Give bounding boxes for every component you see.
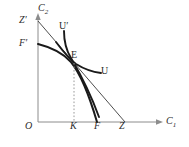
label-Z: Z (119, 121, 125, 131)
y-axis-title-subscript: 2 (45, 8, 49, 16)
x-axis-title-subscript: 1 (173, 121, 177, 129)
budget-line-ZZ (38, 21, 125, 122)
x-axis-title: C1 (166, 116, 176, 129)
label-U: U (101, 66, 108, 76)
label-F-prime: F′ (19, 38, 27, 48)
label-E: E (71, 50, 77, 60)
y-axis-title: C2 (38, 3, 48, 16)
label-U-prime: U′ (59, 21, 68, 31)
label-Z-prime: Z′ (19, 15, 27, 25)
label-F: F (94, 121, 100, 131)
y-axis-title-text: C (38, 2, 45, 13)
indifference-curve-U-prime (64, 31, 99, 117)
economics-diagram: C2 C1 O K F Z Z′ F′ E U U′ (0, 0, 189, 147)
x-axis-title-text: C (166, 115, 173, 126)
label-K: K (70, 121, 77, 131)
label-origin: O (25, 121, 32, 131)
x-axis-arrowhead (156, 119, 163, 124)
